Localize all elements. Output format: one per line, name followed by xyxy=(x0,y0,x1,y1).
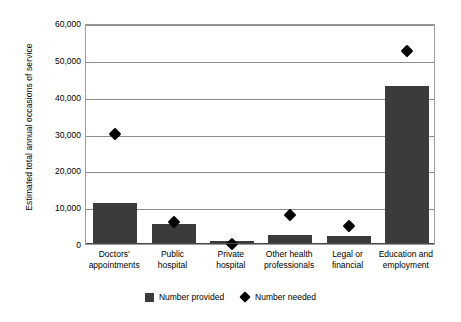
y-tick-label: 20,000 xyxy=(33,167,81,176)
plot-area xyxy=(85,24,435,245)
diamond-marker-1 xyxy=(109,128,122,141)
x-axis-category-labels: Doctors'appointmentsPublichospitalPrivat… xyxy=(85,249,435,283)
x-axis-label-5: Legal orfinancial xyxy=(318,249,376,271)
x-axis-label-line: Other health xyxy=(260,249,318,260)
diamond-marker-5 xyxy=(342,219,355,232)
x-axis-label-6: Education andemployment xyxy=(377,249,435,271)
legend-item-number-provided: Number provided xyxy=(145,292,224,302)
diamond-marker-6 xyxy=(400,45,413,58)
diamond-marker-4 xyxy=(284,208,297,221)
x-axis-label-line: Legal or xyxy=(318,249,376,260)
x-axis-label-3: Privatehospital xyxy=(202,249,260,271)
y-tick-label: 50,000 xyxy=(33,57,81,66)
bar-1 xyxy=(93,203,137,243)
x-axis-label-line: Private xyxy=(202,249,260,260)
legend-label-number-provided: Number provided xyxy=(159,292,224,302)
y-tick-label: 30,000 xyxy=(33,130,81,139)
bar-4 xyxy=(268,235,312,243)
series-layer xyxy=(86,25,434,244)
y-tick-label: 60,000 xyxy=(33,20,81,29)
x-axis-label-line: hospital xyxy=(202,260,260,271)
x-axis-label-line: hospital xyxy=(143,260,201,271)
y-tick-label: 0 xyxy=(33,241,81,250)
y-tick-label: 40,000 xyxy=(33,93,81,102)
chart-container: Estimated total annual occasions of serv… xyxy=(0,0,461,322)
x-axis-label-line: financial xyxy=(318,260,376,271)
legend-item-number-needed: Number needed xyxy=(240,292,316,302)
chart-legend: Number provided Number needed xyxy=(0,292,461,302)
x-axis-label-1: Doctors'appointments xyxy=(85,249,143,271)
bar-5 xyxy=(327,236,371,243)
x-axis-label-line: employment xyxy=(377,260,435,271)
x-axis-label-2: Publichospital xyxy=(143,249,201,271)
bar-6 xyxy=(385,86,429,243)
x-axis-label-line: Education and xyxy=(377,249,435,260)
x-axis-baseline xyxy=(86,243,434,244)
x-axis-label-line: Public xyxy=(143,249,201,260)
x-axis-label-line: professionals xyxy=(260,260,318,271)
bar-swatch-icon xyxy=(145,293,154,302)
x-axis-label-line: appointments xyxy=(85,260,143,271)
diamond-swatch-icon xyxy=(239,291,250,302)
y-axis-tick-labels: 60,00050,00040,00030,00020,00010,0000 xyxy=(30,24,81,245)
y-tick-label: 10,000 xyxy=(33,204,81,213)
x-axis-label-line: Doctors' xyxy=(85,249,143,260)
x-axis-label-4: Other healthprofessionals xyxy=(260,249,318,271)
legend-label-number-needed: Number needed xyxy=(255,292,316,302)
